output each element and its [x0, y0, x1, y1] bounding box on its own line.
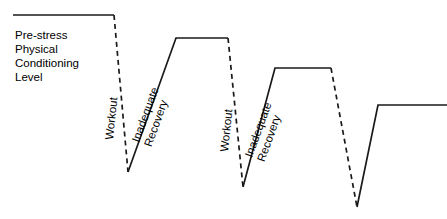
workout-decline-3: [331, 68, 357, 207]
conditioning-level-chart: Pre-stress Physical Conditioning Level W…: [0, 0, 447, 219]
pre-stress-caption-block: Pre-stress Physical Conditioning Level: [15, 29, 79, 83]
caption-line-3: Conditioning: [15, 57, 79, 69]
workout-label-2: Workout: [218, 108, 234, 152]
inadequate-recovery-label-2-group: Inadequate Recovery: [243, 100, 286, 163]
workout-label-1: Workout: [103, 96, 119, 140]
workout-label-2-group: Workout: [218, 108, 234, 152]
workout-decline-1: [114, 15, 128, 172]
caption-line-2: Physical: [15, 43, 58, 55]
recovery-rise-3: [357, 105, 447, 207]
overtraining-diagram: Pre-stress Physical Conditioning Level W…: [0, 0, 447, 219]
inadequate-recovery-label-1-group: Inadequate Recovery: [130, 85, 173, 148]
workout-label-1-group: Workout: [103, 96, 119, 140]
caption-line-1: Pre-stress: [15, 29, 68, 41]
caption-line-4: Level: [15, 71, 43, 83]
